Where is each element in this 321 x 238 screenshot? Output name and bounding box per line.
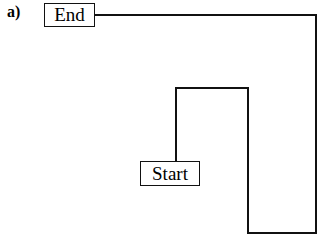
start-node-label: Start — [152, 164, 188, 183]
panel-label: a) — [7, 4, 20, 20]
routing-diagram-panel: a) End Start — [0, 0, 321, 238]
path-svg — [0, 0, 321, 238]
end-node-label: End — [54, 5, 85, 24]
end-node-box[interactable]: End — [44, 3, 95, 27]
start-to-end-route-line — [95, 15, 316, 233]
start-node-box[interactable]: Start — [140, 161, 200, 186]
